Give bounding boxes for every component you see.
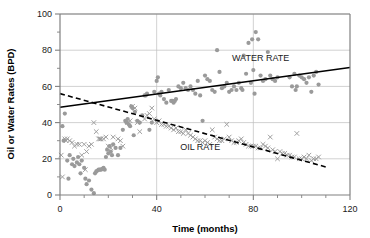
water-rate-point: [63, 111, 67, 115]
water-rate-point: [77, 162, 81, 166]
water-rate-point: [188, 84, 192, 88]
x-tick-label-40: 40: [152, 204, 162, 214]
water-rate-point: [198, 93, 202, 97]
water-rate-point: [68, 153, 72, 157]
water-rate-point: [258, 73, 262, 77]
y-tick-label-60: 60: [42, 82, 52, 92]
water-rate-point: [294, 88, 298, 92]
water-rate-point: [193, 92, 197, 96]
water-rate-point: [256, 37, 260, 41]
water-rate-point: [110, 153, 114, 157]
water-rate-point: [121, 128, 125, 132]
water-rate-point: [87, 178, 91, 182]
water-rate-point: [200, 119, 204, 123]
x-tick-label-120: 120: [342, 204, 357, 214]
water-rate-point: [66, 177, 70, 181]
water-rate-point: [304, 81, 308, 85]
water-rate-point: [104, 155, 108, 159]
water-rate-point: [268, 73, 272, 77]
water-rate-point: [84, 182, 88, 186]
water-rate-point: [232, 84, 236, 88]
water-rate-point: [162, 97, 166, 101]
chart-background: [0, 0, 370, 238]
water-rate-point: [132, 133, 136, 137]
water-rate-point: [78, 171, 82, 175]
x-axis-title: Time (months): [172, 223, 237, 234]
water-rate-point: [196, 79, 200, 83]
water-rate-point: [240, 88, 244, 92]
water-rate-point: [307, 75, 311, 79]
y-tick-label-80: 80: [42, 45, 52, 55]
water-rate-point: [109, 149, 113, 153]
water-rate-point: [251, 68, 255, 72]
water-rate-point: [316, 82, 320, 86]
water-rate-point: [181, 81, 185, 85]
water-rate-point: [273, 79, 277, 83]
x-tick-label-0: 0: [57, 204, 62, 214]
x-tick-label-80: 80: [248, 204, 258, 214]
water-rate-point: [60, 124, 64, 128]
water-rate-point: [174, 97, 178, 101]
water-rate-point: [254, 30, 258, 34]
y-tick-label-20: 20: [42, 154, 52, 164]
water-rate-point: [252, 92, 256, 96]
y-axis-title: Oil or Water Rates (BPD): [5, 48, 16, 159]
water-rate-point: [295, 84, 299, 88]
water-rate-point: [217, 70, 221, 74]
water-rate-point: [203, 73, 207, 77]
scatter-chart: 02040608010004080120 WATER RATEOIL RATE …: [0, 0, 370, 238]
water-rate-point: [65, 159, 69, 163]
water-rate-point: [80, 159, 84, 163]
water-rate-point: [152, 90, 156, 94]
water-rate-point: [302, 77, 306, 81]
water-rate-point: [116, 153, 120, 157]
water-rate-point: [113, 146, 117, 150]
water-rate-point: [208, 79, 212, 83]
oil-rate-label: OIL RATE: [180, 142, 220, 152]
y-tick-label-100: 100: [37, 9, 52, 19]
water-rate-point: [156, 75, 160, 79]
water-rate-point: [234, 88, 238, 92]
water-rate-point: [250, 37, 254, 41]
y-tick-label-40: 40: [42, 118, 52, 128]
water-rate-point: [244, 72, 248, 76]
water-rate-point: [164, 101, 168, 105]
water-rate-point: [155, 79, 159, 83]
water-rate-point: [103, 168, 107, 172]
water-rate-point: [246, 41, 250, 45]
water-rate-point: [89, 187, 93, 191]
water-rate-point: [229, 88, 233, 92]
chart-container: 02040608010004080120 WATER RATEOIL RATE …: [0, 0, 370, 238]
water-rate-point: [215, 48, 219, 52]
water-rate-point: [312, 73, 316, 77]
water-rate-point: [83, 177, 87, 181]
water-rate-label: WATER RATE: [232, 53, 289, 63]
water-rate-point: [309, 90, 313, 94]
water-rate-point: [72, 164, 76, 168]
y-tick-label-0: 0: [47, 190, 52, 200]
water-rate-point: [147, 128, 151, 132]
water-rate-point: [213, 90, 217, 94]
water-rate-point: [71, 157, 75, 161]
water-rate-point: [290, 84, 294, 88]
